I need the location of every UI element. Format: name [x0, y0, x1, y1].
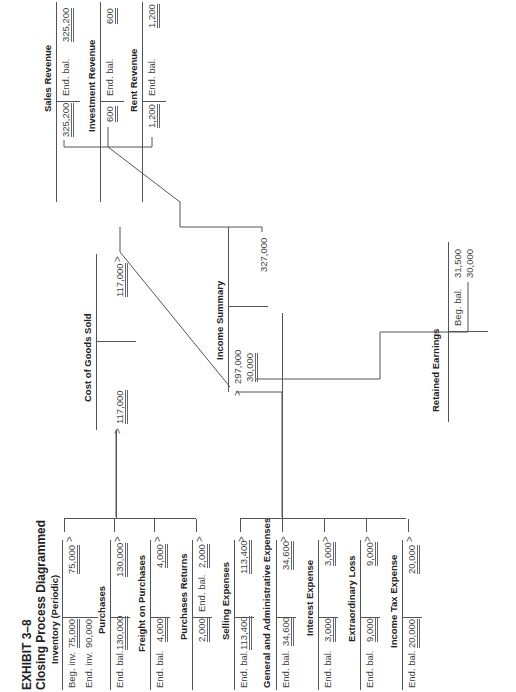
revenue-connectors	[0, 0, 516, 692]
closing-diagram: EXHIBIT 3–8 Closing Process Diagrammed I…	[0, 0, 516, 692]
